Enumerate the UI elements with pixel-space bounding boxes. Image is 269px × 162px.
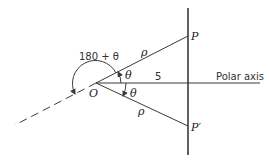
polar-diagram: 180 + θ O θ θ ρ ρ 5 P P′ Polar axis — [0, 0, 269, 162]
label-distance-5: 5 — [155, 71, 161, 82]
label-point-p: P — [190, 30, 199, 43]
dashed-extension — [15, 83, 96, 125]
label-origin: O — [89, 87, 98, 100]
label-theta-upper: θ — [125, 69, 132, 82]
label-point-p-prime: P′ — [190, 121, 201, 134]
angle-arc-theta-lower — [123, 83, 126, 96]
label-polar-axis: Polar axis — [216, 71, 264, 82]
label-rho-lower: ρ — [137, 105, 145, 118]
label-theta-lower: θ — [130, 87, 137, 100]
label-rho-upper: ρ — [140, 46, 148, 59]
label-180-plus-theta: 180 + θ — [79, 51, 119, 62]
angle-arc-theta-upper — [118, 72, 121, 83]
